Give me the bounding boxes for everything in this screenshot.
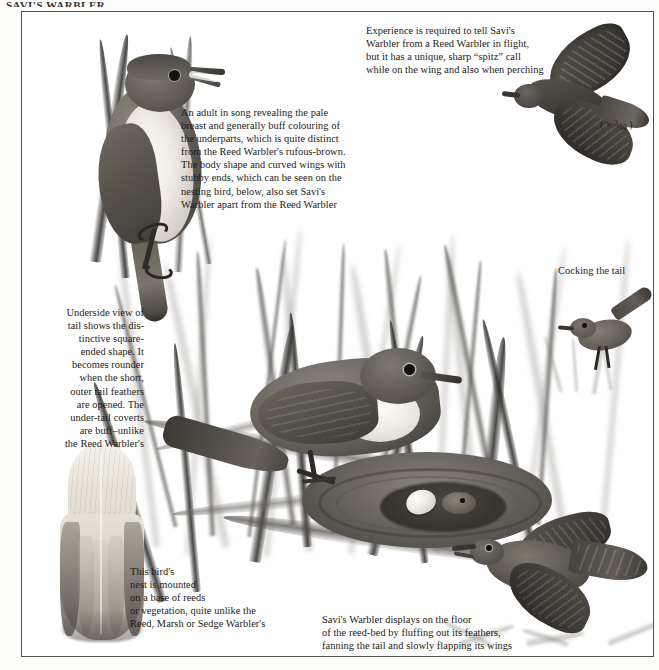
scale-annotation: ( × 3⁄10 ) bbox=[600, 119, 633, 132]
scale-denominator: 10 bbox=[619, 123, 627, 132]
scale-fraction: 3⁄10 bbox=[614, 119, 627, 132]
scale-numerator: 3 bbox=[614, 119, 618, 128]
caption-flight: Experience is required to tell Savi's Wa… bbox=[366, 24, 596, 76]
illustration-nesting-bird bbox=[162, 312, 452, 502]
caption-underside-tail: Underside view of tail shows the dis- ti… bbox=[22, 306, 144, 450]
plate-frame: ( × 3⁄10 ) bbox=[21, 11, 654, 657]
plate-artwork: ( × 3⁄10 ) bbox=[22, 12, 653, 656]
page-header-remnant: SAVI'S WARBLER bbox=[6, 0, 156, 7]
caption-adult-in-song: An adult in song revealing the pale brea… bbox=[181, 106, 401, 211]
caption-cocking-the-tail: Cocking the tail bbox=[558, 264, 653, 277]
illustration-cocking-tail-bird bbox=[552, 294, 653, 399]
scale-suffix: ) bbox=[627, 119, 633, 130]
caption-display: Savi's Warbler displays on the floor of … bbox=[322, 613, 582, 652]
illustration-page: SAVI'S WARBLER bbox=[0, 0, 659, 670]
singing-adult-eye bbox=[169, 70, 180, 81]
scale-prefix: ( × bbox=[600, 119, 614, 130]
caption-nest: This bird's nest is mounted on a base of… bbox=[130, 565, 340, 630]
